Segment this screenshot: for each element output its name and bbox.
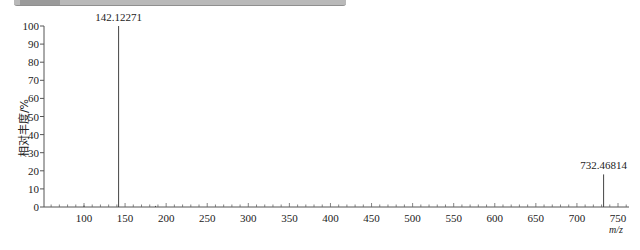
x-axis-label: m/z <box>609 224 623 235</box>
y-tick-label: 90 <box>28 38 40 50</box>
y-tick-label: 100 <box>23 20 40 32</box>
x-tick-label: 550 <box>445 212 462 224</box>
x-tick-label: 350 <box>281 212 298 224</box>
x-tick-label: 650 <box>528 212 545 224</box>
y-tick-label: 80 <box>28 56 40 68</box>
y-tick-label: 10 <box>28 183 40 195</box>
x-tick-label: 700 <box>569 212 586 224</box>
x-tick-label: 300 <box>240 212 257 224</box>
x-tick-label: 600 <box>487 212 504 224</box>
x-tick-label: 100 <box>76 212 93 224</box>
y-tick-label: 0 <box>34 201 40 213</box>
mass-spectrum-chart: 0102030405060708090100100150200250300350… <box>0 0 640 250</box>
x-tick-label: 500 <box>404 212 421 224</box>
x-tick-label: 200 <box>158 212 175 224</box>
y-axis-label: 相对丰度/% <box>15 93 31 163</box>
y-tick-label: 70 <box>28 74 40 86</box>
x-tick-label: 750 <box>610 212 627 224</box>
peak-label: 732.46814 <box>580 159 627 171</box>
peak-label: 142.12271 <box>95 11 142 23</box>
x-tick-label: 250 <box>199 212 216 224</box>
x-tick-label: 450 <box>363 212 380 224</box>
y-tick-label: 20 <box>28 165 40 177</box>
x-tick-label: 400 <box>322 212 339 224</box>
x-tick-label: 150 <box>117 212 134 224</box>
